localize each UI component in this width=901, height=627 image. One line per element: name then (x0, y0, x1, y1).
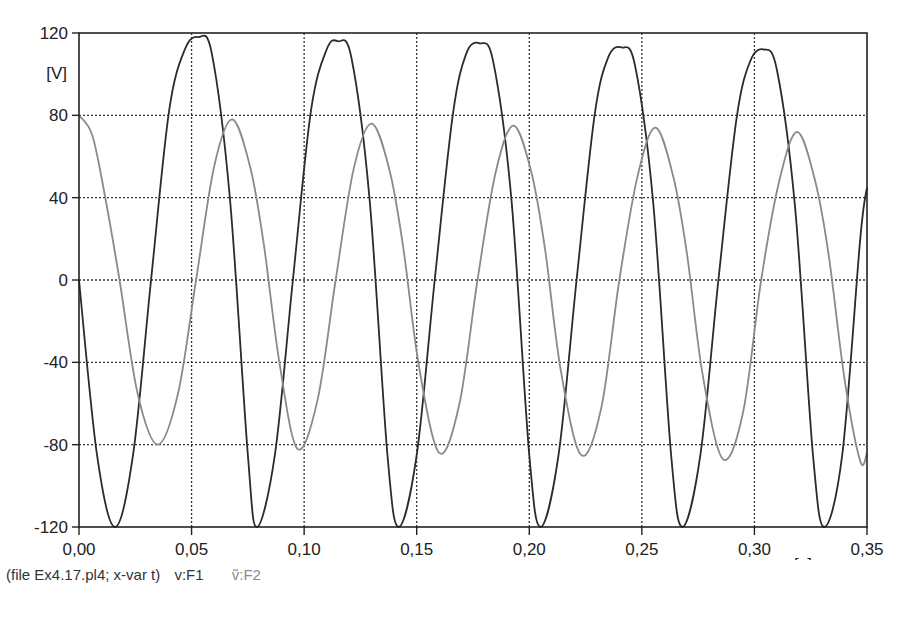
x-tick-label: 0,10 (288, 540, 321, 559)
y-tick-label: 80 (49, 106, 68, 125)
x-tick-label: 0,00 (62, 540, 95, 559)
x-tick-label: 0,30 (738, 540, 771, 559)
y-tick-label: -120 (34, 518, 68, 537)
series-v-f1 (79, 35, 867, 527)
y-tick-label: 0 (59, 271, 68, 290)
legend-item-f1: v:F1 (174, 566, 203, 583)
x-tick-label: 0,15 (400, 540, 433, 559)
file-info-label: (file Ex4.17.pl4; x-var t) (6, 566, 160, 583)
y-axis: 12080400-40-80-120 (34, 24, 79, 537)
y-tick-label: -80 (43, 436, 68, 455)
x-tick-label: 0,25 (625, 540, 658, 559)
x-tick-label: 0,05 (175, 540, 208, 559)
data-series (79, 35, 867, 527)
legend-item-f2: ṽ:F2 (232, 566, 261, 583)
y-tick-label: 120 (40, 24, 68, 43)
y-axis-unit-label: [V] (46, 64, 67, 83)
x-axis-unit-label: [s] (794, 555, 812, 560)
x-tick-label: 0,35 (850, 540, 883, 559)
grid-lines (79, 33, 867, 527)
chart: 12080400-40-80-120 0,000,050,100,150,200… (0, 0, 901, 560)
y-tick-label: -40 (43, 353, 68, 372)
plot-caption: (file Ex4.17.pl4; x-var t) v:F1 ṽ:F2 (6, 566, 271, 583)
series-v-f2 (79, 115, 867, 465)
y-tick-label: 40 (49, 189, 68, 208)
x-axis: 0,000,050,100,150,200,250,300,35 (62, 527, 883, 559)
x-tick-label: 0,20 (513, 540, 546, 559)
